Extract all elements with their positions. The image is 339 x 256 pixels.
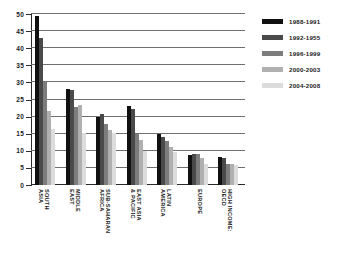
y-axis-label: 30	[0, 79, 24, 86]
legend-swatch	[262, 67, 283, 72]
bar	[112, 133, 116, 185]
x-axis-label: EUROPE	[196, 189, 202, 253]
legend-label: 1988-1991	[289, 18, 320, 25]
x-axis-label: MIDDLE EAST	[68, 189, 81, 253]
bar-group	[66, 14, 86, 185]
x-axis-label: SUB-SAHARAN AFRICA	[98, 189, 111, 253]
bar-group	[127, 14, 147, 185]
y-axis-label: 45	[0, 28, 24, 35]
x-axis-label: EAST ASIA & PACIFIC	[129, 189, 142, 253]
bar	[143, 151, 147, 185]
y-axis-label: 50	[0, 11, 24, 18]
bar-group	[218, 14, 238, 185]
legend-label: 2004-2008	[289, 82, 320, 89]
y-axis-label: 40	[0, 45, 24, 52]
plot-area	[31, 14, 245, 185]
x-axis-label: LATIN AMERICA	[159, 189, 172, 253]
bar-group	[157, 14, 177, 185]
legend-swatch	[262, 19, 283, 24]
legend-item[interactable]: 1992-1955	[262, 29, 338, 45]
legend-item[interactable]: 2000-2003	[262, 61, 338, 77]
legend-label: 1996-1999	[289, 50, 320, 57]
bar	[204, 164, 208, 185]
bar	[51, 129, 55, 185]
legend-label: 2000-2003	[289, 66, 320, 73]
legend-item[interactable]: 1996-1999	[262, 45, 338, 61]
bar-chart: 05101520253035404550 SOUTH ASIAMIDDLE EA…	[0, 0, 339, 256]
legend: 1988-19911992-19551996-19992000-20032004…	[262, 13, 338, 93]
y-axis-label: 10	[0, 147, 24, 154]
x-axis-label: SOUTH ASIA	[37, 189, 50, 253]
bar-group	[35, 14, 55, 185]
y-axis-label: 25	[0, 96, 24, 103]
bar	[82, 133, 86, 185]
y-axis-label: 5	[0, 164, 24, 171]
y-axis-label: 35	[0, 62, 24, 69]
bar-group	[188, 14, 208, 185]
legend-label: 1992-1955	[289, 34, 320, 41]
bar	[173, 152, 177, 185]
legend-swatch	[262, 35, 283, 40]
bar	[234, 165, 238, 185]
x-axis-label: HIGH INCOME: OECD	[221, 189, 234, 253]
legend-item[interactable]: 1988-1991	[262, 13, 338, 29]
y-axis-label: 15	[0, 130, 24, 137]
legend-item[interactable]: 2004-2008	[262, 77, 338, 93]
y-axis-label: 20	[0, 113, 24, 120]
legend-swatch	[262, 83, 283, 88]
y-axis-label: 0	[0, 182, 24, 189]
bar-group	[96, 14, 116, 185]
legend-swatch	[262, 51, 283, 56]
